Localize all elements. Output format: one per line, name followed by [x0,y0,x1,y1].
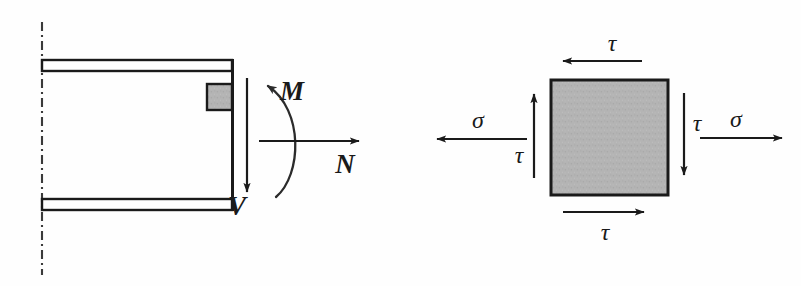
shear-stress-top-label: τ [608,30,618,56]
bending-moment-label: M [279,76,305,106]
stress-element-group: τ τ τ τ σ σ [437,30,782,245]
shear-stress-right-label: τ [693,110,703,136]
shear-stress-bottom-label: τ [601,219,611,245]
bottom-flange [42,199,232,210]
top-flange [42,60,232,71]
stress-element-square [551,80,668,195]
normal-stress-right-label: σ [730,106,743,132]
stress-element-location-marker [207,84,232,110]
axial-force-label: N [334,149,356,179]
engineering-figure: V M N τ τ τ τ σ [0,0,801,286]
normal-stress-left-label: σ [472,107,485,133]
shear-stress-left-label: τ [515,142,525,168]
figure-canvas: V M N τ τ τ τ σ [0,0,801,286]
cantilever-beam-group: V M N [42,22,359,275]
shear-force-label: V [228,191,248,221]
